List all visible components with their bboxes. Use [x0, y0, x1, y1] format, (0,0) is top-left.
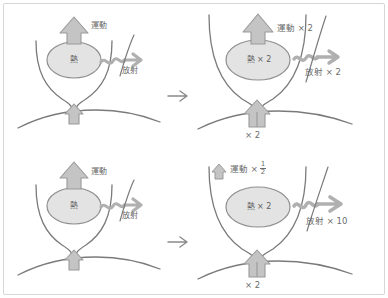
base-label: × 2 — [245, 281, 260, 290]
transition-arrow-top — [168, 91, 187, 101]
base-label: × 2 — [245, 131, 260, 140]
diagram-canvas: 熱 運動 放射 熱 × 2 運動 × 2 — [0, 0, 388, 298]
heat-label: 熱 — [63, 56, 85, 64]
panel-top-right: 熱 × 2 運動 × 2 放射 × 2 × 2 — [194, 0, 388, 149]
motion-up-arrow — [60, 17, 88, 44]
fraction-denominator: 2 — [260, 168, 266, 176]
motion-label-text: 運動 × — [230, 165, 258, 174]
fraction-one-half: 1 2 — [260, 161, 266, 177]
base-up-arrow — [65, 104, 83, 124]
base-double-up-arrow — [244, 100, 270, 127]
motion-label: 運動 — [91, 22, 107, 30]
heat-label: 熱 — [63, 202, 85, 210]
heat-label: 熱 × 2 — [238, 203, 280, 211]
transition-arrow-bottom — [168, 237, 187, 247]
panel-top-left: 熱 運動 放射 — [0, 0, 194, 149]
motion-label: 運動 × 2 — [277, 24, 313, 33]
heat-label: 熱 × 2 — [238, 56, 280, 64]
radiation-label: 放射 — [122, 212, 138, 220]
radiation-label: 放射 × 10 — [306, 217, 347, 226]
motion-label: 運動 — [91, 168, 107, 176]
panel-bottom-right: 熱 × 2 運動 × 1 2 放射 × 10 × 2 — [194, 149, 388, 298]
motion-small-up-arrow — [212, 164, 226, 179]
panel-bottom-left: 熱 運動 放射 — [0, 149, 194, 298]
radiation-label: 放射 × 2 — [305, 68, 341, 77]
motion-label: 運動 × 1 2 — [230, 161, 266, 177]
radiation-wave-arrow — [101, 54, 141, 66]
fraction-numerator: 1 — [260, 161, 266, 168]
radiation-wave-arrow — [101, 199, 141, 211]
base-up-arrow — [65, 250, 83, 270]
base-double-up-arrow — [244, 250, 270, 277]
motion-up-arrow — [60, 162, 88, 189]
radiation-label: 放射 — [122, 67, 138, 75]
motion-up-arrow — [243, 14, 273, 44]
